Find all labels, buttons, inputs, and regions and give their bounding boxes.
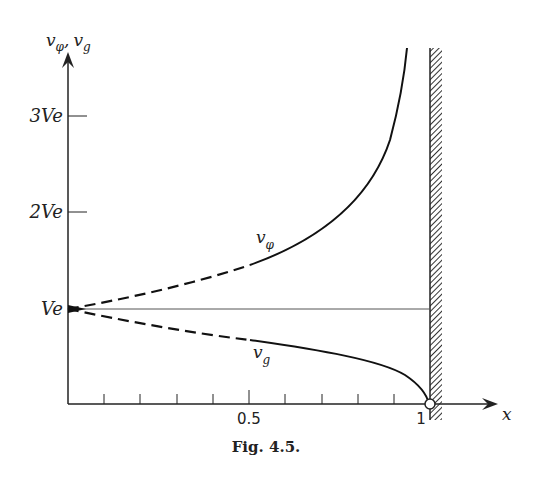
x-tick-label-1: 1 [416,410,426,428]
y-ticks [68,116,87,212]
v-g-curve [250,340,429,404]
y-tick-label-3ve: 3Ve [30,105,63,126]
x-tick-label-0-5: 0.5 [237,410,261,428]
v-phi-curve [250,48,407,265]
v-phi-curve-dashed [68,265,250,309]
chart: vφ,vg 3Ve 2Ve Ve 0.5 1 x vφ vg Fig. 4.5. [0,0,533,483]
v-phi-label: vφ [256,227,275,252]
endpoint-circle [425,399,435,409]
figure-caption: Fig. 4.5. [232,438,301,456]
x-axis-label: x [502,404,512,424]
v-g-label: vg [253,342,271,367]
y-tick-label-ve: Ve [41,298,63,319]
y-axis-label: vφ,vg [46,30,91,54]
x-ticks [104,390,394,404]
wall [430,48,442,420]
v-g-curve-dashed [68,309,250,340]
y-tick-label-2ve: 2Ve [29,201,63,222]
